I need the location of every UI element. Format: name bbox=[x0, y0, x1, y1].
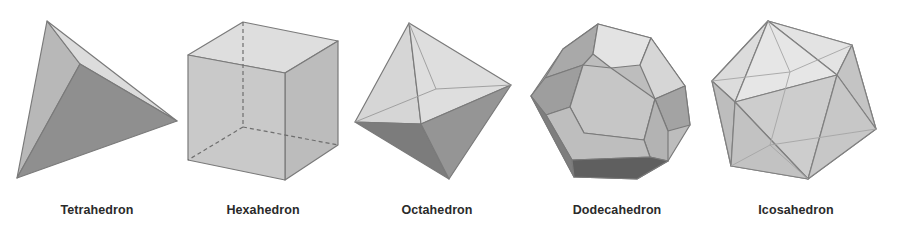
tetrahedron-label: Tetrahedron bbox=[60, 203, 133, 217]
platonic-solids-figure: Tetrahedron Hexahedron Octahedron Dodeca… bbox=[0, 0, 897, 233]
octahedron-label: Octahedron bbox=[401, 203, 472, 217]
icosahedron-label: Icosahedron bbox=[758, 203, 833, 217]
dodecahedron-label: Dodecahedron bbox=[573, 203, 662, 217]
solids-drawing bbox=[0, 0, 897, 233]
tetrahedron-shape bbox=[17, 21, 177, 178]
hexahedron-label: Hexahedron bbox=[226, 203, 299, 217]
octahedron-shape bbox=[355, 23, 511, 179]
dodecahedron-shape bbox=[531, 24, 690, 179]
icosahedron-shape bbox=[712, 21, 876, 179]
hexahedron-shape bbox=[188, 22, 338, 180]
